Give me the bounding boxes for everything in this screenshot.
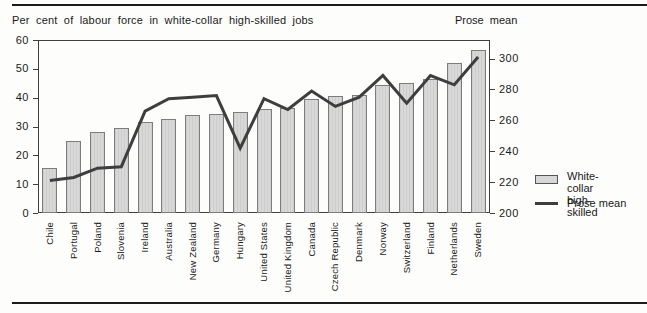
right-axis-tick bbox=[490, 59, 495, 60]
right-axis-label: 200 bbox=[499, 208, 519, 219]
left-axis-label: 20 bbox=[7, 150, 29, 161]
legend-bar-swatch bbox=[535, 175, 558, 184]
right-axis-tick bbox=[490, 120, 495, 121]
right-axis-title: Prose mean bbox=[455, 14, 517, 26]
left-axis-label: 40 bbox=[7, 92, 29, 103]
right-axis-label: 280 bbox=[499, 84, 519, 95]
left-axis-label: 60 bbox=[7, 35, 29, 46]
left-axis-title: Per cent of labour force in white-collar… bbox=[12, 14, 314, 26]
bottom-rule bbox=[12, 302, 647, 304]
top-rule bbox=[12, 4, 647, 6]
left-axis-tick bbox=[33, 40, 38, 41]
left-axis-label: 30 bbox=[7, 121, 29, 132]
x-label-hungary: Hungary bbox=[235, 222, 245, 259]
left-axis-tick bbox=[33, 155, 38, 156]
chart-figure: Per cent of labour force in white-collar… bbox=[0, 0, 647, 313]
x-label-netherlands: Netherlands bbox=[449, 222, 459, 275]
right-axis-label: 240 bbox=[499, 146, 519, 157]
x-label-chile: Chile bbox=[45, 222, 55, 245]
left-axis-tick bbox=[33, 213, 38, 214]
right-axis-label: 220 bbox=[499, 177, 519, 188]
x-label-poland: Poland bbox=[93, 222, 103, 253]
x-label-germany: Germany bbox=[211, 222, 221, 262]
x-label-canada: Canada bbox=[307, 222, 317, 256]
right-axis-tick bbox=[490, 182, 495, 183]
left-axis-label: 50 bbox=[7, 63, 29, 74]
right-axis-label: 300 bbox=[499, 53, 519, 64]
x-label-united-states: United States bbox=[259, 222, 269, 282]
legend-bar-label-line1: White-collar bbox=[567, 170, 599, 194]
x-label-new-zealand: New Zealand bbox=[188, 222, 198, 280]
x-label-slovenia: Slovenia bbox=[116, 222, 126, 260]
x-label-united-kingdom: United Kingdom bbox=[283, 222, 293, 292]
prose-mean-line bbox=[50, 57, 478, 181]
x-label-czech-republic: Czech Republic bbox=[330, 222, 340, 291]
right-axis-tick bbox=[490, 213, 495, 214]
left-axis-tick bbox=[33, 98, 38, 99]
left-axis-label: 0 bbox=[7, 208, 29, 219]
x-label-australia: Australia bbox=[164, 222, 174, 261]
x-label-portugal: Portugal bbox=[69, 222, 79, 259]
x-label-denmark: Denmark bbox=[354, 222, 364, 262]
right-axis-tick bbox=[490, 89, 495, 90]
x-label-sweden: Sweden bbox=[473, 222, 483, 258]
legend-line-label: Prose mean bbox=[567, 197, 626, 209]
legend-line-swatch bbox=[535, 202, 558, 205]
right-axis-label: 260 bbox=[499, 115, 519, 126]
left-axis-tick bbox=[33, 184, 38, 185]
left-axis-label: 10 bbox=[7, 179, 29, 190]
left-axis-tick bbox=[33, 127, 38, 128]
x-label-norway: Norway bbox=[378, 222, 388, 255]
prose-mean-line-layer bbox=[38, 40, 490, 213]
x-label-switzerland: Switzerland bbox=[402, 222, 412, 273]
right-axis-tick bbox=[490, 151, 495, 152]
x-label-finland: Finland bbox=[426, 222, 436, 255]
left-axis-tick bbox=[33, 69, 38, 70]
x-label-ireland: Ireland bbox=[140, 222, 150, 252]
legend-bar-label: White-collar high-skilled bbox=[567, 170, 599, 218]
